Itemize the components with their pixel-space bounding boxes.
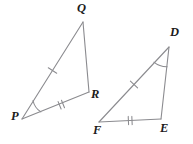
tick-double-edge-pr-1 xyxy=(58,102,61,109)
vertex-label-d: D xyxy=(170,26,179,39)
vertex-label-q: Q xyxy=(77,2,86,15)
geometry-figure: P Q R F D E xyxy=(0,0,193,144)
edge-d-e xyxy=(161,47,169,119)
edge-f-e xyxy=(99,119,161,122)
angle-arc-d xyxy=(154,62,167,67)
edge-p-r xyxy=(22,92,89,119)
triangle-pqr xyxy=(22,22,89,119)
tick-double-edge-pr-2 xyxy=(62,100,65,107)
angle-arc-p xyxy=(33,101,41,112)
vertex-label-p: P xyxy=(11,110,19,123)
vertex-label-f: F xyxy=(93,124,101,137)
triangle-fde xyxy=(99,47,169,125)
vertex-label-e: E xyxy=(160,122,168,135)
tick-single-edge-pq xyxy=(48,68,56,73)
vertex-label-r: R xyxy=(91,88,99,101)
edge-q-r xyxy=(83,22,89,92)
